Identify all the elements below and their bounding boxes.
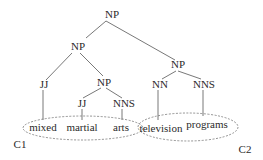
cluster-label-c1: C1 xyxy=(14,138,27,150)
node-nn-television: NN xyxy=(152,78,168,90)
parse-tree-diagram: NP NP NP JJ NP JJ NNS NN NNS mixed marti… xyxy=(0,0,263,160)
word-arts: arts xyxy=(113,121,129,133)
node-root-np: NP xyxy=(105,8,119,20)
cluster-label-c2: C2 xyxy=(239,143,252,155)
word-mixed: mixed xyxy=(29,121,57,133)
node-jj-mixed: JJ xyxy=(40,78,49,90)
node-nns-programs: NNS xyxy=(193,78,215,90)
node-jj-martial: JJ xyxy=(78,97,87,109)
node-np-right: NP xyxy=(171,58,185,70)
node-np-left: NP xyxy=(71,40,85,52)
word-television: television xyxy=(140,122,183,134)
word-programs: programs xyxy=(186,118,228,130)
node-nns-arts: NNS xyxy=(113,97,135,109)
node-np-inner: NP xyxy=(97,76,111,88)
word-martial: martial xyxy=(66,121,97,133)
